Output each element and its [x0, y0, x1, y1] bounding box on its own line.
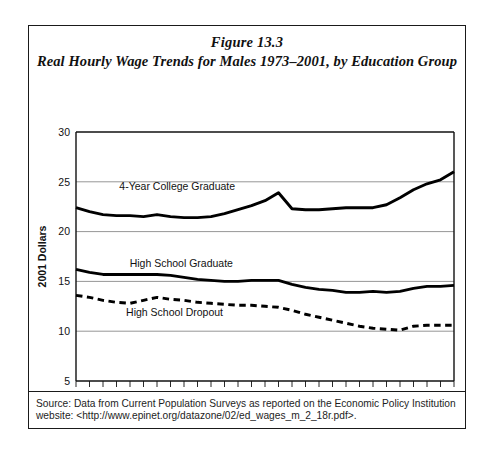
- y-tick-label: 15: [58, 275, 70, 287]
- source-line-2: website: <http://www.epinet.org/datazone…: [36, 410, 457, 423]
- chart-plot-area: 51015202530 1973197819831988199319982001…: [29, 88, 465, 388]
- figure-title: Real Hourly Wage Trends for Males 1973–2…: [29, 51, 465, 71]
- figure-number: Figure 13.3: [29, 33, 465, 51]
- y-tick-label: 20: [58, 225, 70, 237]
- figure-title-block: Figure 13.3 Real Hourly Wage Trends for …: [29, 26, 465, 71]
- series-label: High School Graduate: [130, 257, 233, 269]
- y-axis-title: 2001 Dollars: [36, 225, 48, 287]
- series-label: 4-Year College Graduate: [119, 180, 235, 192]
- series-line: [76, 172, 454, 218]
- source-note: Source: Data from Current Population Sur…: [29, 391, 465, 428]
- y-tick-label: 25: [58, 176, 70, 188]
- x-axis-ticks: [76, 381, 454, 387]
- y-tick-label: 30: [58, 126, 70, 138]
- figure-frame: Figure 13.3 Real Hourly Wage Trends for …: [28, 25, 466, 429]
- source-line-1: Source: Data from Current Population Sur…: [36, 398, 457, 411]
- series-line: [76, 269, 454, 292]
- y-tick-label: 10: [58, 325, 70, 337]
- series-label: High School Dropout: [126, 306, 223, 318]
- wage-trends-line-chart: 51015202530 1973197819831988199319982001…: [29, 88, 465, 388]
- series-annotations: 4-Year College GraduateHigh School Gradu…: [119, 180, 235, 318]
- y-axis-tick-labels: 51015202530: [58, 126, 70, 387]
- y-tick-label: 5: [64, 375, 70, 387]
